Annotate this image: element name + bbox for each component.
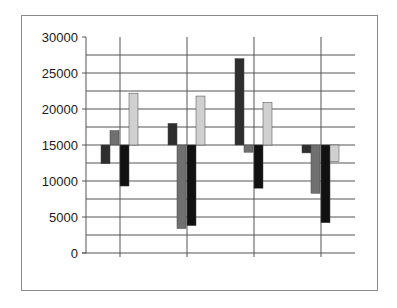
bar-series-4-group-2 — [196, 96, 205, 145]
bar-series-3-group-2 — [187, 145, 196, 226]
bar-series-1-group-3 — [235, 59, 244, 145]
bar-series-2-group-2 — [177, 145, 186, 229]
bar-series-3-group-3 — [254, 145, 263, 188]
bar-series-1-group-2 — [168, 123, 177, 145]
y-tick-label: 30000 — [42, 30, 78, 45]
bar-series-2-group-3 — [244, 145, 253, 152]
y-tick-labels: 050001000015000200002500030000 — [42, 30, 78, 261]
bar-series-1-group-1 — [101, 145, 110, 164]
bar-series-4-group-1 — [129, 93, 138, 145]
bar-chart: 050001000015000200002500030000 — [0, 0, 397, 308]
y-tick-label: 15000 — [42, 138, 78, 153]
bar-series-1-group-4 — [302, 145, 311, 153]
y-tick-label: 5000 — [49, 210, 78, 225]
y-tick-label: 0 — [71, 246, 78, 261]
bar-series-3-group-4 — [321, 145, 330, 223]
bar-series-2-group-1 — [110, 131, 119, 145]
bars — [101, 59, 339, 229]
y-tick-label: 25000 — [42, 66, 78, 81]
bar-series-3-group-1 — [120, 145, 129, 186]
bar-series-2-group-4 — [311, 145, 320, 193]
y-tick-label: 20000 — [42, 102, 78, 117]
bar-series-4-group-4 — [330, 145, 339, 162]
bar-series-4-group-3 — [263, 103, 272, 145]
y-tick-label: 10000 — [42, 174, 78, 189]
